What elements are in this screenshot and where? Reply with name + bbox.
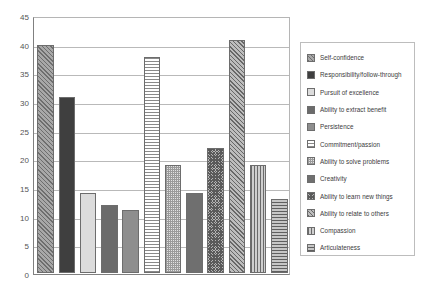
legend-item: Pursuit of excellence	[307, 84, 410, 101]
bar-articulateness	[271, 199, 288, 273]
y-tick-label: 35	[20, 70, 29, 79]
legend-item: Articulateness	[307, 239, 410, 256]
y-tick-label: 40	[20, 41, 29, 50]
plot-area	[33, 17, 290, 275]
legend-swatch-icon	[307, 123, 315, 131]
y-tick-label: 25	[20, 127, 29, 136]
legend-item: Ability to extract benefit	[307, 101, 410, 118]
legend-item-label: Ability to extract benefit	[320, 106, 386, 113]
legend-swatch-icon	[307, 71, 315, 79]
legend-item: Creativity	[307, 170, 410, 187]
legend-item: Responsibility/follow-through	[307, 66, 410, 83]
legend-item-label: Ability to learn new things	[320, 193, 393, 200]
legend-item-label: Pursuit of excellence	[320, 89, 379, 96]
y-tick-label: 15	[20, 185, 29, 194]
bar-ability-to-learn-new-things	[207, 148, 224, 273]
legend-item-label: Creativity	[320, 175, 347, 182]
legend-swatch-icon	[307, 244, 315, 252]
legend-swatch-icon	[307, 209, 315, 217]
chart-legend: Self-confidenceResponsibility/follow-thr…	[300, 42, 415, 256]
bar-commitment-passion	[144, 57, 161, 273]
legend-item: Compassion	[307, 222, 410, 239]
bar-series	[35, 19, 288, 273]
legend-item-label: Ability to solve problems	[320, 158, 389, 165]
legend-item-label: Compassion	[320, 227, 356, 234]
y-tick-label: 0	[25, 271, 29, 280]
legend-item: Ability to relate to others	[307, 205, 410, 222]
y-tick-label: 20	[20, 156, 29, 165]
legend-swatch-icon	[307, 157, 315, 165]
legend-swatch-icon	[307, 175, 315, 183]
bar-ability-to-extract-benefit	[101, 205, 118, 273]
bar-pursuit-of-excellence	[80, 193, 97, 273]
y-tick-label: 30	[20, 99, 29, 108]
bar-compassion	[250, 165, 267, 273]
legend-item: Persistence	[307, 118, 410, 135]
legend-swatch-icon	[307, 192, 315, 200]
y-tick-label: 5	[25, 242, 29, 251]
legend-swatch-icon	[307, 140, 315, 148]
y-tick-label: 45	[20, 13, 29, 22]
legend-item: Commitment/passion	[307, 135, 410, 152]
legend-swatch-icon	[307, 106, 315, 114]
legend-item-label: Articulateness	[320, 244, 360, 251]
bar-creativity	[186, 193, 203, 273]
legend-item-label: Responsibility/follow-through	[320, 71, 402, 78]
legend-item: Self-confidence	[307, 49, 410, 66]
legend-swatch-icon	[307, 54, 315, 62]
bar-persistence	[122, 210, 139, 273]
legend-item: Ability to solve problems	[307, 153, 410, 170]
legend-item-label: Self-confidence	[320, 54, 364, 61]
legend-item: Ability to learn new things	[307, 187, 410, 204]
legend-item-label: Persistence	[320, 123, 353, 130]
bar-responsibility-follow-through	[59, 97, 76, 273]
legend-item-label: Commitment/passion	[320, 141, 380, 148]
bar-self-confidence	[37, 45, 54, 273]
legend-item-label: Ability to relate to others	[320, 210, 389, 217]
bar-chart: 0 5 10 15 20 25 30 35 40 45 Self-confide…	[0, 0, 436, 291]
bar-ability-to-relate-to-others	[229, 40, 246, 273]
bar-ability-to-solve-problems	[165, 165, 182, 273]
legend-swatch-icon	[307, 88, 315, 96]
y-tick-label: 10	[20, 213, 29, 222]
legend-swatch-icon	[307, 227, 315, 235]
